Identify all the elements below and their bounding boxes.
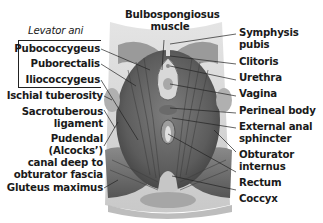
label-obturator-internus-line2: internus <box>239 161 286 173</box>
label-vagina: Vagina <box>239 88 277 100</box>
label-puborectalis: Puborectalis <box>31 58 100 70</box>
label-coccyx: Coccyx <box>239 193 278 205</box>
label-iliococcygeus: Iliococcygeus <box>26 74 100 86</box>
label-clitoris: Clitoris <box>239 56 278 68</box>
label-gluteus-maximus: Gluteus maximus <box>7 182 103 194</box>
label-external-anal-sphincter-line2: sphincter <box>239 133 291 145</box>
label-sacrotuberous-ligament-line1: Sacrotuberous <box>22 106 103 118</box>
label-symphysis-pubis-line2: pubis <box>239 39 269 51</box>
label-pudendal-canal-line1: Pudendal <box>51 133 103 145</box>
levator-ani-group-label: Levator ani <box>28 25 83 37</box>
label-pudendal-canal-line2: (Alcocks’) <box>49 145 103 157</box>
label-urethra: Urethra <box>239 72 282 84</box>
label-sacrotuberous-ligament-line2: ligament <box>54 118 103 130</box>
label-bulbospongiosus-line1: Bulbospongiosus <box>125 9 215 21</box>
label-ischial-tuberosity: Ischial tuberosity <box>7 90 103 102</box>
label-perineal-body: Perineal body <box>239 105 316 117</box>
label-pudendal-canal-line3: canal deep to <box>28 157 103 169</box>
label-pubococcygeus: Pubococcygeus <box>14 43 100 55</box>
label-pudendal-canal-line4: obturator fascia <box>14 169 103 181</box>
label-obturator-internus-line1: Obturator <box>239 149 294 161</box>
label-symphysis-pubis-line1: Symphysis <box>239 27 299 39</box>
label-external-anal-sphincter-line1: External anal <box>239 121 312 133</box>
label-rectum: Rectum <box>239 177 281 189</box>
label-bulbospongiosus-line2: muscle <box>125 21 215 33</box>
